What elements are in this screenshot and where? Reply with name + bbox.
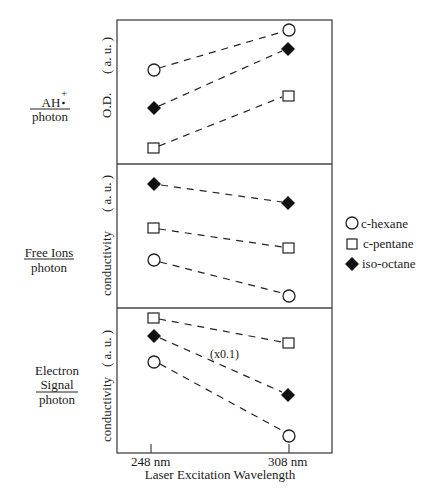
row-label-bottom-line2: Signal	[40, 377, 74, 392]
y-label-middle: conductivity	[99, 231, 114, 296]
row-label-bottom-denominator: photon	[39, 392, 76, 407]
marker-c-hexane-308-top	[283, 24, 295, 36]
legend-label-c-pentane: c-pentane	[363, 236, 414, 251]
legend-circle-icon	[346, 217, 358, 229]
marker-c-hexane-308-bottom	[283, 430, 295, 442]
legend: c-hexane c-pentane iso-octane	[345, 216, 416, 271]
marker-c-pentane-248-top	[148, 143, 159, 153]
y-unit-bottom: ( a. u. )	[99, 330, 114, 367]
legend-label-iso-octane: iso-octane	[362, 256, 416, 271]
row-label-top-numerator: AH	[42, 95, 61, 110]
marker-c-hexane-248-middle	[148, 254, 160, 266]
y-label-top: O.D.	[99, 93, 114, 118]
plot-frame	[117, 20, 332, 453]
marker-c-pentane-248-middle	[148, 223, 159, 233]
marker-iso-octane-308-top	[281, 42, 295, 56]
marker-c-hexane-248-top	[148, 64, 160, 76]
panel-top-lines	[159, 32, 282, 146]
marker-c-hexane-308-middle	[283, 290, 295, 302]
marker-iso-octane-308-middle	[281, 196, 295, 210]
marker-iso-octane-308-bottom	[281, 388, 295, 402]
row-label-top-denominator: photon	[32, 109, 69, 124]
y-label-bottom: conductivity	[99, 377, 114, 442]
marker-c-pentane-248-bottom	[148, 313, 159, 323]
marker-c-pentane-308-middle	[283, 243, 294, 253]
legend-label-c-hexane: c-hexane	[361, 216, 408, 231]
marker-iso-octane-248-middle	[147, 177, 161, 191]
legend-diamond-icon	[345, 257, 359, 271]
row-label-top: AH + photon	[30, 87, 70, 124]
x-axis-label: Laser Excitation Wavelength	[145, 467, 296, 482]
row-label-middle-denominator: photon	[31, 260, 68, 275]
row-label-bottom-line1: Electron	[35, 363, 80, 378]
annotation-x0-1: (x0.1)	[210, 347, 239, 361]
legend-square-icon	[347, 239, 357, 249]
panel-bottom-lines	[159, 319, 283, 431]
marker-iso-octane-248-bottom	[147, 329, 161, 343]
y-unit-top: ( a. u. )	[99, 37, 114, 74]
row-label-middle: Free Ions photon	[24, 245, 74, 275]
marker-c-hexane-248-bottom	[148, 356, 160, 368]
row-label-top-superscript: +	[61, 87, 67, 99]
chart-figure: (x0.1) 248 nm 308 nm Laser Excitation Wa…	[0, 0, 435, 498]
y-unit-middle: ( a. u. )	[99, 175, 114, 212]
row-label-bottom: Electron Signal photon	[35, 363, 80, 407]
marker-c-pentane-308-bottom	[283, 338, 294, 348]
marker-iso-octane-248-top	[147, 101, 161, 115]
radical-dot-icon	[62, 102, 65, 105]
marker-c-pentane-308-top	[283, 91, 294, 101]
panel-middle-lines	[159, 185, 282, 293]
row-label-middle-numerator: Free Ions	[25, 245, 74, 260]
